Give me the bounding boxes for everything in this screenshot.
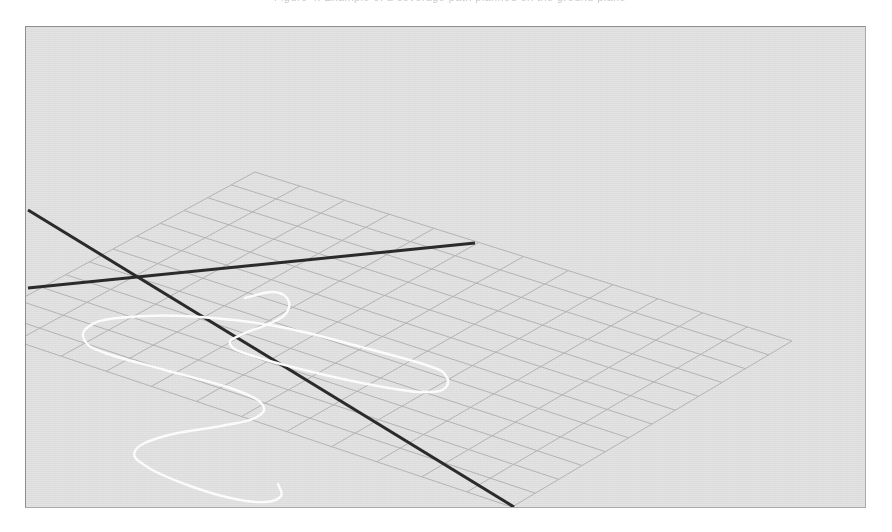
plot-canvas: [26, 27, 866, 508]
grid-line: [287, 271, 569, 432]
plot-frame: [25, 26, 866, 508]
coverage-path-curve: [83, 292, 448, 502]
grid-line: [512, 341, 792, 507]
axis-lines-group: [28, 210, 514, 507]
grid-line: [242, 257, 524, 417]
figure-root: Figure 4: Example of a coverage path pla…: [0, 0, 892, 532]
grid-line: [467, 327, 747, 492]
grid-line: [26, 326, 512, 507]
clipped-caption-text: Figure 4: Example of a coverage path pla…: [120, 0, 780, 3]
grid-line: [106, 214, 389, 371]
grid-line: [26, 300, 559, 479]
path-coverage-path: [83, 292, 448, 502]
ground-plane-grid: [26, 172, 792, 507]
axis-line-se: [28, 210, 514, 507]
grid-line: [377, 299, 658, 462]
grid-line: [26, 172, 255, 326]
grid-line: [422, 313, 703, 477]
